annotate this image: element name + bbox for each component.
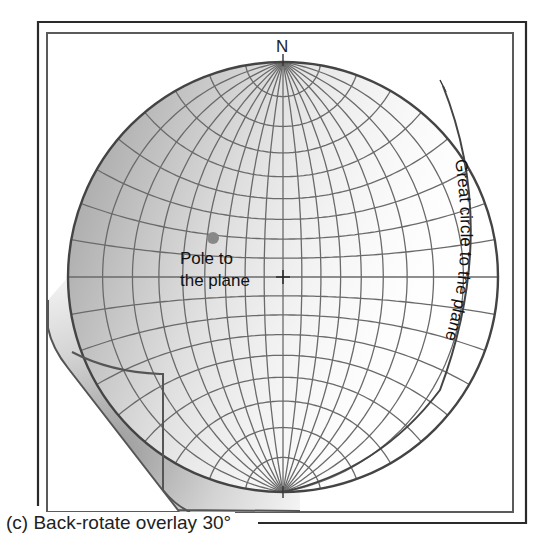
- stereonet-figure: Great circle to the plane N Pole to the …: [0, 0, 556, 558]
- pole-label-line1: Pole to: [180, 248, 250, 270]
- north-label: N: [276, 37, 288, 57]
- stereonet-diagram: Great circle to the plane: [0, 0, 556, 558]
- pole-dot: [207, 232, 219, 244]
- figure-caption: (c) Back-rotate overlay 30°: [6, 512, 235, 534]
- pole-label-line2: the plane: [180, 270, 250, 292]
- pole-label: Pole to the plane: [180, 248, 250, 292]
